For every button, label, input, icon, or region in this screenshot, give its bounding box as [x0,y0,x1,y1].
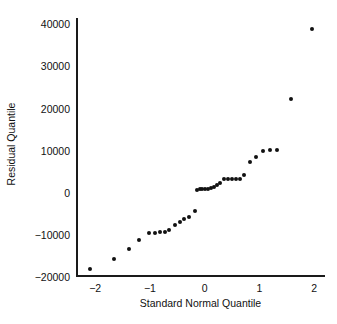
x-axis-tick-labels: −2−1012 [76,279,325,295]
data-point [127,247,131,251]
data-point [167,228,171,232]
data-point [310,27,314,31]
data-point [173,223,177,227]
data-point [147,231,151,235]
y-tick-label: 40000 [41,19,70,30]
data-point [178,220,182,224]
data-point [137,238,141,242]
x-tick-label: −2 [89,283,101,294]
x-tick-label: −1 [144,283,156,294]
data-point [261,149,265,153]
data-point [275,148,279,152]
data-point [248,160,252,164]
data-point [254,155,258,159]
data-point [268,148,272,152]
qq-plot-figure: −20000−10000010000200003000040000 −2−101… [0,0,337,324]
x-tick-label: 1 [256,283,262,294]
y-tick-label: −20000 [35,272,70,283]
data-point [187,215,191,219]
plot-area [76,18,325,277]
x-tick-label: 0 [202,283,208,294]
y-tick-label: 30000 [41,61,70,72]
y-tick-label: 0 [64,187,70,198]
data-point [193,209,197,213]
data-point [242,173,246,177]
data-point [112,257,116,261]
x-axis-line [76,275,325,277]
y-tick-label: 20000 [41,103,70,114]
data-point [238,177,242,181]
y-axis-line [76,18,78,277]
data-point [158,230,162,234]
data-point [153,231,157,235]
data-point [88,267,92,271]
y-axis-title: Residual Quantile [5,79,17,209]
y-tick-label: 10000 [41,145,70,156]
data-point [182,217,186,221]
x-tick-label: 2 [311,283,317,294]
data-point [289,97,293,101]
x-axis-title: Standard Normal Quantile [76,297,325,309]
y-tick-label: −10000 [35,229,70,240]
data-point [218,181,222,185]
